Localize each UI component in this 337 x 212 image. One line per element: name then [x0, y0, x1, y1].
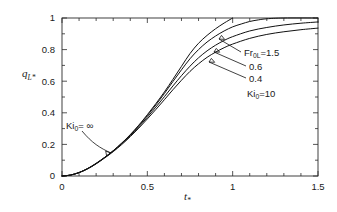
y-tick-label: 0 [50, 170, 55, 181]
y-axis-title: qL* [22, 67, 36, 82]
annotation-fr0l: Fr0L=1.5 [244, 47, 279, 59]
y-tick-label: 1 [50, 12, 55, 23]
leader-04 [209, 62, 246, 78]
annotation-ki0-infinity: Ki0= ∞ [66, 120, 93, 132]
arrowhead-ki-infinity [106, 151, 111, 156]
line-chart: 00.511.5 00.20.40.60.81 Fr0L=1.5 0.6 0.4… [0, 0, 337, 212]
y-tick-label: 0.6 [42, 76, 55, 87]
annotation-04: 0.4 [249, 73, 262, 84]
x-tick-label: 0.5 [141, 181, 154, 192]
leader-fr0l [219, 39, 241, 52]
plot-frame [62, 18, 318, 176]
arrowhead-fr0l [219, 35, 225, 39]
y-tick-label: 0.8 [42, 44, 55, 55]
arrowhead-04 [209, 58, 215, 62]
figure-container: 00.511.5 00.20.40.60.81 Fr0L=1.5 0.6 0.4… [0, 0, 337, 212]
x-tick-label: 1.5 [311, 181, 324, 192]
x-axis-tick-labels: 00.511.5 [59, 181, 324, 192]
leader-ki-infinity [82, 131, 111, 153]
annotation-ki0-10: Ki0=10 [247, 88, 275, 100]
curve-0-6 [62, 22, 318, 176]
curve-0-4 [62, 28, 318, 176]
y-tick-label: 0.4 [42, 107, 55, 118]
x-axis-title: t* [184, 190, 191, 205]
annotation-leaders [82, 35, 246, 156]
data-curves [62, 18, 318, 176]
leader-06 [214, 52, 246, 66]
y-tick-label: 0.2 [42, 139, 55, 150]
x-tick-label: 1 [230, 181, 235, 192]
x-tick-label: 0 [59, 181, 64, 192]
y-axis-tick-labels: 00.20.40.60.81 [42, 12, 55, 181]
y-axis-major-ticks [62, 18, 318, 176]
curve-fr0l-1-5 [62, 18, 318, 176]
annotation-06: 0.6 [249, 61, 262, 72]
x-axis-major-ticks [62, 18, 318, 176]
